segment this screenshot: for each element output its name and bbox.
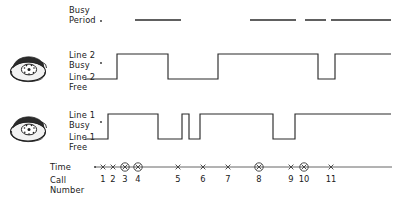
call-number-6: 6 [200, 174, 205, 184]
time-axis-origin-dot [94, 166, 96, 168]
time-axis-row: Time Call Number 1234567891011 [49, 162, 392, 195]
call-number-1: 1 [100, 174, 105, 184]
call-number-2: 2 [110, 174, 115, 184]
line1-busy-dot-marker [100, 121, 102, 123]
line2-busy-label-line2: Busy [69, 60, 90, 70]
call-number-4: 4 [135, 174, 140, 184]
line1-row: Line 1 Busy Line 1 Free [11, 110, 392, 152]
line1-busy-label-line1: Line 1 [69, 110, 95, 120]
line2-free-label-line1: Line 2 [69, 72, 95, 82]
busy-period-dot-marker [100, 20, 102, 22]
call-number-9: 9 [288, 174, 293, 184]
busy-period-label-line2: Period [69, 15, 96, 25]
call-number-group: 1234567891011 [100, 174, 336, 184]
line1-free-label-line2: Free [69, 142, 87, 152]
call-number-label-line2: Number [50, 185, 85, 195]
call-number-5: 5 [175, 174, 180, 184]
call-number-8: 8 [256, 174, 261, 184]
line2-row: Line 2 Busy Line 2 Free [11, 50, 392, 92]
call-number-3: 3 [122, 174, 127, 184]
call-number-7: 7 [225, 174, 230, 184]
telephone-icon [11, 117, 47, 142]
telephone-icon [11, 57, 47, 82]
line2-free-label-line2: Free [69, 82, 87, 92]
line1-busy-label-line2: Busy [69, 120, 90, 130]
call-number-label-line1: Call [50, 175, 66, 185]
line1-waveform [85, 114, 391, 139]
timing-diagram-canvas: Busy Period Line 2 Bu [0, 0, 401, 201]
busy-period-row: Busy Period [69, 5, 391, 25]
line2-busy-label-line1: Line 2 [69, 50, 95, 60]
line1-free-label-line1: Line 1 [69, 132, 95, 142]
line2-waveform [85, 54, 391, 79]
busy-period-label-line1: Busy [69, 5, 90, 15]
line2-busy-dot-marker [100, 62, 102, 64]
call-number-10: 10 [299, 174, 310, 184]
call-number-11: 11 [326, 174, 337, 184]
timing-diagram: Busy Period Line 2 Bu [0, 0, 401, 201]
time-axis-label: Time [49, 162, 71, 172]
